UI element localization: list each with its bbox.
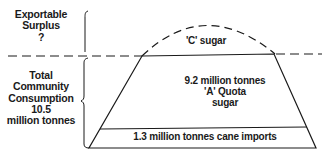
label-line: sugar [170,98,280,109]
imports-divider [100,127,307,129]
label-line: Surplus [0,20,82,31]
label-line: Community [0,81,82,92]
label-line: ? [0,32,82,43]
total-consumption-label: Total Community Consumption 10.5 million… [0,70,82,127]
exportable-surplus-label: Exportable Surplus ? [0,9,82,43]
label-line: 'A' Quota [170,87,280,98]
a-quota-label: 9.2 million tonnes 'A' Quota sugar [170,76,280,108]
c-sugar-label: 'C' sugar [176,36,236,47]
label-line: million tonnes [0,115,82,126]
upper-brace [85,11,88,52]
cane-imports-label: 1.3 million tonnes cane imports [120,132,290,143]
lower-brace [81,58,89,148]
